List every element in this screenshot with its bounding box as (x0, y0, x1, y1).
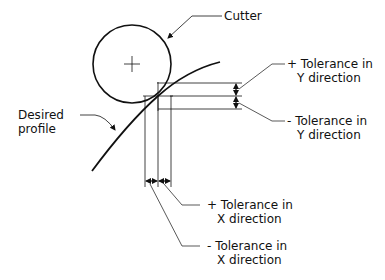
plus-y-tolerance-label-line1: + Tolerance in (287, 57, 373, 71)
cutter-leader (168, 16, 222, 38)
plus-x-tolerance-label-line2: X direction (217, 212, 282, 226)
minus-y-tolerance-label-line2: Y direction (297, 128, 361, 142)
plus-y-tolerance-label-line2: Y direction (297, 71, 361, 85)
plus-x-leader (164, 184, 200, 205)
desired-profile-label-line1: Desired (18, 108, 64, 122)
desired-profile-curve (92, 62, 220, 171)
minus-x-leader (150, 184, 200, 246)
desired-profile-leader (80, 115, 115, 130)
desired-profile-label-line2: profile (18, 122, 56, 136)
cutter-label: Cutter (224, 9, 262, 23)
plus-x-tolerance-label-line1: + Tolerance in (207, 198, 293, 212)
minus-x-tolerance-label-line1: - Tolerance in (207, 239, 287, 253)
cutter-circle (93, 25, 171, 103)
x-tolerance-lines (143, 96, 173, 187)
minus-x-tolerance-label-line2: X direction (217, 253, 282, 267)
minus-y-tolerance-label-line1: - Tolerance in (287, 114, 367, 128)
minus-y-leader (239, 103, 285, 121)
plus-y-leader (239, 64, 285, 89)
